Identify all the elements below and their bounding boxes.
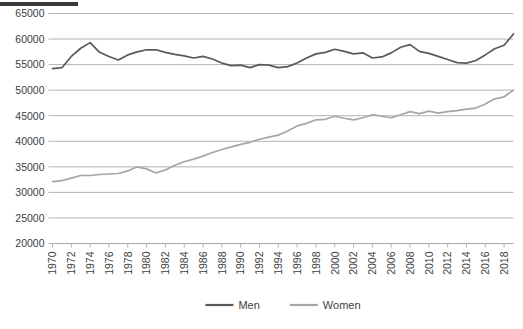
x-axis-tick-label: 1998 [310,251,322,275]
x-axis-tick-label: 2012 [441,251,453,275]
x-axis-tick-label: 1990 [234,251,246,275]
x-axis-tick-label: 2006 [385,251,397,275]
x-axis-tick-label: 2004 [366,251,378,275]
y-axis-tick-label: 65000 [15,7,44,19]
x-axis-tick-label: 1978 [122,251,134,275]
x-axis-tick-label: 1984 [178,251,190,275]
x-axis-tick-label: 1992 [253,251,265,275]
x-axis-tick-label: 2016 [479,251,491,275]
x-axis-tick-label: 1994 [272,251,284,275]
x-axis-tick-label: 2002 [347,251,359,275]
x-axis-tick-label: 1982 [159,251,171,275]
y-axis-tick-label: 20000 [15,237,44,249]
legend-label-women: Women [323,299,361,311]
x-axis-tick-label: 2018 [498,251,510,275]
x-axis-tick-label: 1976 [103,251,115,275]
series-line-women [53,90,514,181]
x-axis-tick-label: 2014 [460,251,472,275]
y-axis-tick-label: 60000 [15,33,44,45]
x-axis-tick-label: 1974 [84,251,96,275]
x-axis-tick-label: 2000 [329,251,341,275]
x-axis-tick-label: 1970 [46,251,58,275]
y-axis-tick-label: 30000 [15,186,44,198]
x-axis-tick-label: 1972 [65,251,77,275]
y-axis-tick-label: 45000 [15,110,44,122]
y-axis-tick-label: 40000 [15,135,44,147]
y-axis-tick-label: 35000 [15,161,44,173]
x-axis-ticks: 1970197219741976197819801982198419861988… [46,244,510,275]
y-axis-tick-label: 25000 [15,212,44,224]
x-axis-tick-label: 1986 [197,251,209,275]
x-axis-tick-label: 2008 [404,251,416,275]
y-axis-tick-label: 55000 [15,58,44,70]
x-axis-tick-label: 1980 [140,251,152,275]
redacted-title-bar [0,2,78,6]
x-axis-tick-label: 2010 [423,251,435,275]
line-chart-svg: 2000025000300003500040000450005000055000… [0,0,523,329]
chart-legend: MenWomen [205,299,360,311]
x-axis-tick-label: 1996 [291,251,303,275]
legend-label-men: Men [238,299,259,311]
series-group [53,34,514,182]
chart-figure: 2000025000300003500040000450005000055000… [0,0,523,329]
x-axis-tick-label: 1988 [216,251,228,275]
y-axis-tick-label: 50000 [15,84,44,96]
